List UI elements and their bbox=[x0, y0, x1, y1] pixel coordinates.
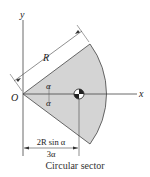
arrowhead-icon bbox=[75, 30, 80, 34]
y-axis-label: y bbox=[19, 9, 25, 20]
circular-sector-diagram: y x O R α α 2R sin α 3α bbox=[0, 0, 150, 177]
centroid-icon bbox=[74, 89, 84, 99]
diagram-caption: Circular sector bbox=[0, 160, 150, 171]
angle-bottom-label: α bbox=[46, 98, 51, 108]
arrowhead-icon bbox=[73, 147, 78, 150]
dimension-denominator: 3α bbox=[47, 149, 56, 159]
arrowhead-icon bbox=[16, 78, 21, 82]
arrowhead-icon bbox=[24, 147, 29, 150]
radius-label: R bbox=[42, 52, 49, 63]
angle-top-label: α bbox=[46, 81, 51, 91]
x-axis-label: x bbox=[138, 88, 144, 99]
origin-label: O bbox=[11, 92, 18, 103]
dimension-numerator: 2R sin α bbox=[37, 137, 66, 147]
